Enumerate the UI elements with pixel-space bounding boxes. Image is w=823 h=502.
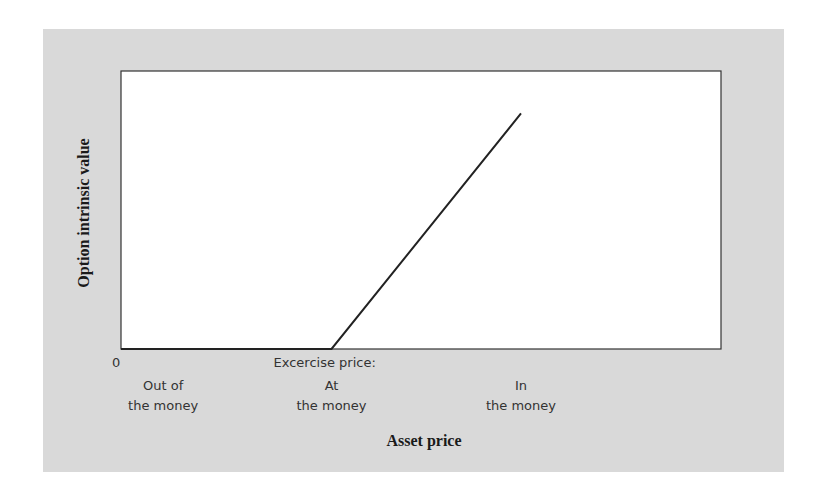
x-annotation-2-line-1: the money: [486, 398, 556, 413]
y-axis-title: Option intrinsic value: [75, 138, 93, 287]
x-annotation-0-line-0: Out of: [143, 378, 184, 393]
x-annotation-1-line-0: Excercise price:: [274, 355, 376, 370]
x-axis-title: Asset price: [386, 432, 461, 450]
option-value-chart: 0 Out ofthe moneyExcercise price:Atthe m…: [0, 0, 823, 502]
x-annotation-2-line-0: In: [515, 378, 527, 393]
x-annotation-1-line-1: At: [325, 378, 339, 393]
plot-area: [121, 71, 721, 349]
x-annotation-1-line-2: the money: [297, 398, 367, 413]
x-origin-label: 0: [112, 355, 120, 370]
x-annotation-0-line-1: the money: [128, 398, 198, 413]
